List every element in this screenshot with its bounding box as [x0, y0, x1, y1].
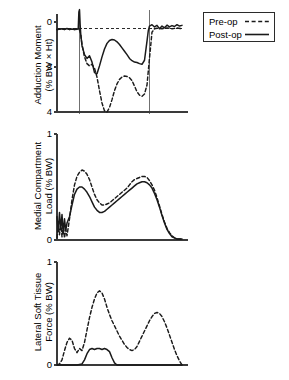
ytick-label: 1	[39, 257, 52, 267]
ytick-label: 1	[39, 129, 52, 139]
ytick-label: 0	[39, 360, 52, 370]
panel-adduction-moment: Adduction Moment (% BW × Ht) 024	[0, 0, 289, 125]
ytick-label: 2	[39, 62, 52, 72]
panel-medial-compartment-load: Medial Compartment Load (% BW) 01	[0, 128, 289, 253]
ytick-label: 0	[39, 17, 52, 27]
panel-lateral-soft-tissue-force: Lateral Soft Tissue Force (% BW) 01	[0, 255, 289, 380]
ytick-label: 4	[39, 107, 52, 117]
figure-gait-biomechanics: Pre-op Post-op Adduction Moment (% BW × …	[0, 0, 289, 380]
ytick-label: 0	[39, 235, 52, 245]
